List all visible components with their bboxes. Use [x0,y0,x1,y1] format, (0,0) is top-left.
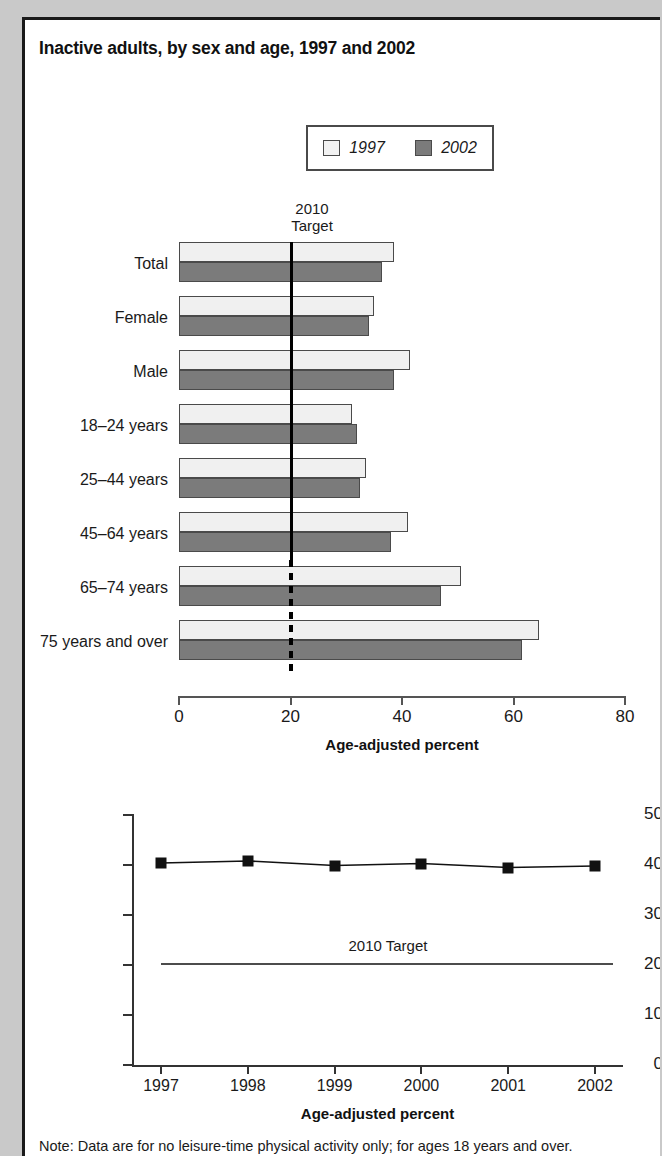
line-x-axis-title: Age-adjusted percent [132,1105,623,1122]
line-x-tick-label: 2001 [490,1077,526,1095]
line-x-tick [160,1065,162,1074]
line-y-tick [123,814,133,816]
line-x-tick [247,1065,249,1074]
bar-category-label: Total [25,255,179,273]
figure-panel: Inactive adults, by sex and age, 1997 an… [22,17,660,1156]
bar-group: Female [25,296,660,350]
bar-2002 [179,478,360,498]
bar-chart: 2010 Target TotalFemaleMale18–24 years25… [25,20,660,740]
line-data-point [329,860,340,871]
bar-1997 [179,242,394,262]
line-x-tick-label: 2002 [577,1077,613,1095]
line-y-tick [123,1014,133,1016]
line-x-axis-line [132,1065,623,1067]
bar-group: 45–64 years [25,512,660,566]
line-x-tick [594,1065,596,1074]
bar-category-label: Female [25,309,179,327]
bar-2002 [179,370,394,390]
bar-x-tick-label: 80 [616,707,635,727]
bar-1997 [179,512,408,532]
bar-2002 [179,424,357,444]
line-y-tick [123,914,133,916]
line-x-tick-label: 2000 [404,1077,440,1095]
bar-x-tick [513,696,515,705]
bar-group: Male [25,350,660,404]
bar-2002 [179,586,441,606]
bar-group: Total [25,242,660,296]
target-caption-line1: 2010 [257,201,367,218]
bar-1997 [179,296,374,316]
target-reference-line [290,242,293,560]
line-data-point [156,858,167,869]
bar-2002 [179,532,391,552]
line-y-tick [123,964,133,966]
bar-category-label: 25–44 years [25,471,179,489]
figure-note: Note: Data are for no leisure-time physi… [39,1138,573,1154]
line-chart: 01020304050 199719981999200020012002 201… [25,800,660,1130]
bar-group: 25–44 years [25,458,660,512]
target-reference-line-dashed [289,560,293,674]
bar-x-tick [624,696,626,705]
line-y-tick [123,864,133,866]
bar-1997 [179,458,366,478]
bar-x-tick-label: 0 [174,707,183,727]
line-x-tick-label: 1997 [143,1077,179,1095]
bar-x-tick [290,696,292,705]
line-y-tick [123,1064,133,1066]
line-x-tick [420,1065,422,1074]
bar-x-tick-label: 60 [504,707,523,727]
bar-x-tick-label: 20 [281,707,300,727]
bar-category-label: Male [25,363,179,381]
bar-x-axis-title: Age-adjusted percent [179,736,625,753]
line-target-label: 2010 Target [349,937,428,954]
bar-2002 [179,262,382,282]
bar-2002 [179,640,522,660]
bar-x-tick-label: 40 [393,707,412,727]
line-x-tick [334,1065,336,1074]
bar-group: 75 years and over [25,620,660,674]
bar-1997 [179,350,410,370]
bar-x-tick [178,696,180,705]
line-plot-area: 2010 Target [133,814,623,1064]
bar-category-label: 75 years and over [25,633,179,651]
bar-1997 [179,620,539,640]
bar-group: 18–24 years [25,404,660,458]
line-data-point [503,862,514,873]
line-x-tick [507,1065,509,1074]
line-data-point [242,856,253,867]
bar-category-label: 45–64 years [25,525,179,543]
bar-category-label: 65–74 years [25,579,179,597]
bar-2002 [179,316,369,336]
target-caption-line2: Target [257,218,367,235]
line-data-point [590,861,601,872]
line-x-tick-label: 1999 [317,1077,353,1095]
bar-1997 [179,404,352,424]
line-data-point [416,858,427,869]
bar-category-label: 18–24 years [25,417,179,435]
bar-group: 65–74 years [25,566,660,620]
bar-x-tick [401,696,403,705]
target-caption: 2010 Target [257,201,367,235]
line-x-tick-label: 1998 [230,1077,266,1095]
bar-1997 [179,566,461,586]
